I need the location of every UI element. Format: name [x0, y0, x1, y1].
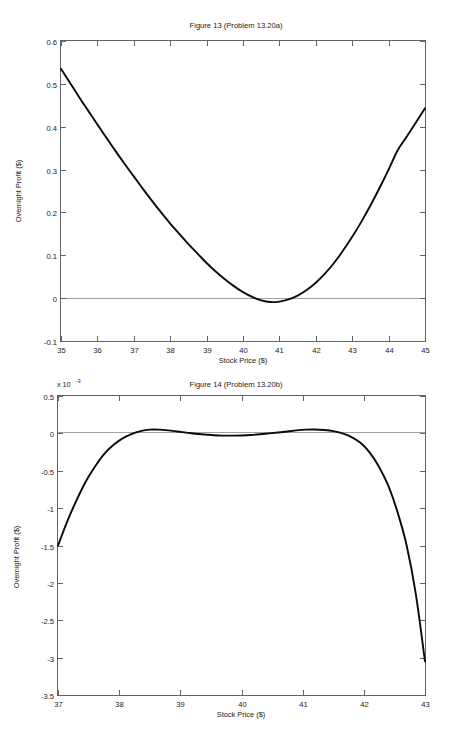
figure-13-title: Figure 13 (Problem 13.20a) [190, 21, 283, 30]
y-tick-label: 0.4 [46, 124, 57, 133]
y-tick-label: -1 [47, 505, 54, 514]
y-tick-label: 0 [53, 295, 57, 304]
y-tick-label: -2 [47, 580, 54, 589]
x-tick-label: 35 [57, 346, 65, 355]
x-tick-label: 38 [115, 700, 123, 709]
y-tick-label: -0.1 [44, 338, 57, 347]
x-tick-label: 42 [360, 700, 368, 709]
y-tick-label: 0.6 [46, 38, 57, 47]
y-tick-label: -3.5 [41, 692, 54, 701]
y-tick-label: 0.2 [46, 209, 57, 218]
x-tick-label: 37 [54, 700, 62, 709]
x-tick-label: 38 [166, 346, 174, 355]
figure-14-y-axis-label: Overnight Profit ($) [12, 526, 21, 588]
x-tick-label: 37 [130, 346, 138, 355]
figure-14-container: Figure 14 (Problem 13.20b) x 10 -3 37383… [0, 374, 456, 748]
y-tick-label: -1.5 [41, 543, 54, 552]
figure-13-y-axis-label: Overnight Profit ($) [14, 160, 23, 222]
x-tick-label: 41 [299, 700, 307, 709]
y-tick-label: 0.1 [46, 252, 57, 261]
figure-14-y-multiplier: x 10 [57, 380, 71, 389]
figure-13-background [0, 0, 456, 374]
y-tick-label: 0.5 [46, 81, 57, 90]
figure-14-background [0, 374, 456, 748]
figure-13-container: Figure 13 (Problem 13.20a) 3536373839404… [0, 0, 456, 374]
x-tick-label: 43 [348, 346, 356, 355]
x-tick-label: 39 [203, 346, 211, 355]
figure-14-plot: Figure 14 (Problem 13.20b) x 10 -3 37383… [0, 374, 456, 748]
x-tick-label: 40 [239, 346, 247, 355]
y-tick-label: 0.3 [46, 167, 57, 176]
figure-14-y-multiplier-exponent: -3 [76, 378, 81, 384]
figure-13-plot: Figure 13 (Problem 13.20a) 3536373839404… [0, 0, 456, 374]
x-tick-label: 43 [421, 700, 429, 709]
figure-13-x-axis-label: Stock Price ($) [219, 356, 267, 365]
y-tick-label: -2.5 [41, 617, 54, 626]
x-tick-label: 41 [275, 346, 283, 355]
y-tick-label: -3 [47, 655, 54, 664]
x-tick-label: 44 [385, 346, 393, 355]
y-tick-label: 0 [50, 430, 54, 439]
figure-14-x-axis-label: Stock Price ($) [217, 710, 265, 719]
figure-14-title: Figure 14 (Problem 13.20b) [190, 380, 283, 389]
x-tick-label: 40 [238, 700, 246, 709]
x-tick-label: 42 [312, 346, 320, 355]
x-tick-label: 36 [93, 346, 101, 355]
x-tick-label: 45 [421, 346, 429, 355]
y-tick-label: 0.5 [43, 393, 54, 402]
y-tick-label: -0.5 [41, 468, 54, 477]
x-tick-label: 39 [176, 700, 184, 709]
